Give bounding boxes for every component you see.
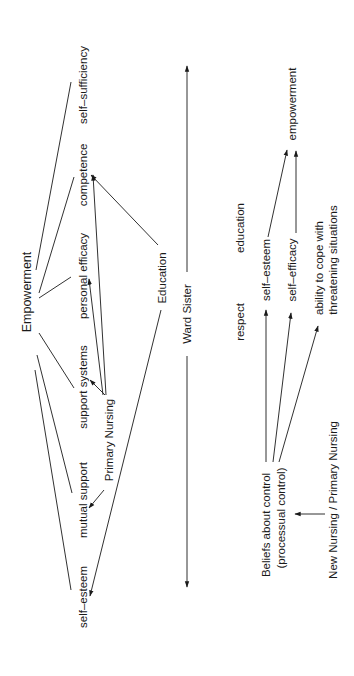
empowerment-lines (35, 82, 74, 590)
label-education-left: Education (156, 252, 168, 303)
label-new-nursing: New Nursing / Primary Nursing (327, 421, 339, 579)
label-self-sufficiency: self–sufficiency (77, 46, 89, 124)
label-ability-line2: threatening situations (327, 205, 339, 315)
label-empowerment-right: empowerment (286, 67, 298, 141)
right-diagram-arrows (266, 150, 325, 514)
label-primary-nursing: Primary Nursing (103, 399, 115, 481)
label-ward-sister: Ward Sister (181, 284, 193, 344)
label-ability-line1: ability to cope with (313, 221, 325, 315)
label-beliefs-line1: Beliefs about control (260, 473, 272, 577)
label-support-systems: support systems (77, 345, 89, 429)
empowerment-hub-label: Empowerment (20, 251, 34, 332)
education-arrows (90, 175, 161, 596)
label-personal-efficacy: personal efficacy (77, 233, 89, 319)
label-mutual-support: mutual support (77, 461, 89, 538)
diagram-canvas: Empowerment self–sufficiency competence … (0, 0, 354, 676)
label-self-efficacy: self–efficacy (286, 238, 298, 301)
label-beliefs-line2: (processual control) (275, 467, 287, 568)
label-respect: respect (234, 302, 246, 341)
label-self-esteem-left: self–esteem (77, 566, 89, 628)
label-self-esteem-right: self–esteem (260, 239, 272, 301)
label-education-right: education (234, 203, 246, 253)
label-competence: competence (77, 144, 89, 207)
